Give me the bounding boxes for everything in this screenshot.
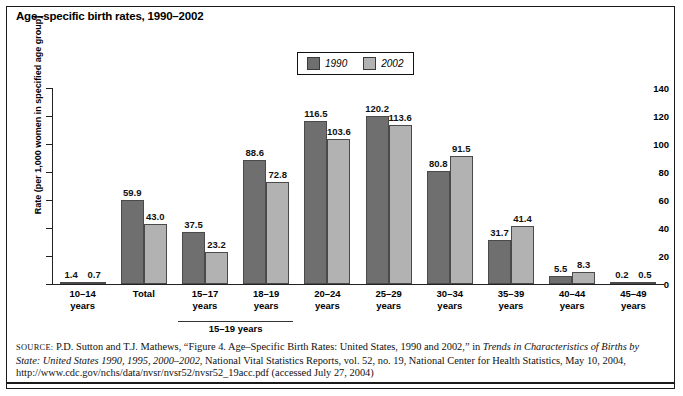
bar-1990-45-49-years — [610, 282, 633, 284]
bar-1990-15-17-years — [182, 232, 205, 285]
bar-value-label: 23.2 — [207, 239, 226, 250]
bar-group: 31.741.4 — [488, 88, 534, 284]
bar-value-label: 0.5 — [638, 269, 651, 280]
bar-1990-total — [121, 200, 144, 284]
bar-value-label: 59.9 — [123, 187, 142, 198]
x-label-line2: years — [620, 300, 646, 312]
x-label-line1: 10–14 — [69, 288, 95, 300]
bottom-rule — [6, 382, 675, 384]
x-label-line1: 25–29 — [375, 288, 401, 300]
x-label-line2: years — [559, 300, 585, 312]
plot-area: Rate (per 1,000 women in specified age g… — [0, 0, 669, 383]
bar-value-label: 72.8 — [268, 169, 287, 180]
x-label-line1: 30–34 — [437, 288, 463, 300]
bar-2002-15-17-years — [205, 252, 228, 284]
x-axis-tick-label: 20–24years — [314, 288, 340, 311]
bar-value-label: 113.6 — [388, 112, 411, 123]
bar-group: 116.5103.6 — [304, 88, 350, 284]
bar-group: 37.523.2 — [182, 88, 228, 284]
bar-value-label: 91.5 — [452, 143, 471, 154]
x-axis-tick-label: 18–19years — [253, 288, 279, 311]
x-label-line1: 35–39 — [498, 288, 524, 300]
bar-2002-20-24-years — [327, 139, 350, 284]
x-label-line1: 15–17 — [192, 288, 218, 300]
x-axis-tick-label: 35–39years — [498, 288, 524, 311]
bracket-label: 15–19 years — [178, 323, 292, 334]
bar-value-label: 120.2 — [365, 103, 389, 114]
bar-group: 5.58.3 — [549, 88, 595, 284]
bar-value-label: 8.3 — [577, 259, 590, 270]
bar-1990-30-34-years — [427, 171, 450, 284]
x-axis-tick-label: Total — [133, 288, 155, 300]
bar-value-label: 103.6 — [327, 126, 351, 137]
x-label-line2: years — [437, 300, 463, 312]
x-axis-tick-label: 45–49years — [620, 288, 646, 311]
bar-value-label: 80.8 — [429, 158, 448, 169]
x-label-line2: years — [69, 300, 95, 312]
source-italic-1: Trends in Characteristics of Births by — [483, 341, 639, 352]
x-axis-tick-label: 40–44years — [559, 288, 585, 311]
bar-group: 80.891.5 — [427, 88, 473, 284]
bar-value-label: 116.5 — [304, 108, 327, 119]
bar-value-label: 37.5 — [184, 219, 203, 230]
source-italic-2: State: United States 1990, 1995, 2000–20… — [16, 355, 202, 366]
bars-layer: 1.40.759.943.037.523.288.672.8116.5103.6… — [52, 88, 664, 284]
source-text-3: www.cdc.gov/nchs/data/nvsr/nvsr52/nvsr52… — [41, 367, 374, 378]
bar-2002-25-29-years — [389, 125, 412, 284]
bar-value-label: 41.4 — [513, 213, 532, 224]
source-text-1: P.D. Sutton and T.J. Mathews, “Figure 4.… — [53, 341, 482, 352]
x-axis-tick-label: 10–14years — [69, 288, 95, 311]
source-note: SOURCE: P.D. Sutton and T.J. Mathews, “F… — [16, 341, 656, 380]
bar-2002-30-34-years — [450, 156, 473, 284]
x-axis-tick-label: 15–17years — [192, 288, 218, 311]
bar-group: 0.20.5 — [610, 88, 656, 284]
bar-group: 88.672.8 — [243, 88, 289, 284]
bar-value-label: 43.0 — [146, 211, 165, 222]
bar-1990-10-14-years — [60, 282, 83, 284]
y-axis-label: Rate (per 1,000 women in specified age g… — [33, 15, 43, 215]
bar-1990-18-19-years — [243, 160, 266, 284]
bar-1990-40-44-years — [549, 276, 572, 284]
bar-value-label: 0.2 — [615, 269, 628, 280]
bar-value-label: 1.4 — [64, 269, 77, 280]
x-label-line1: 20–24 — [314, 288, 340, 300]
bar-1990-35-39-years — [488, 240, 511, 284]
x-label-line1: 45–49 — [620, 288, 646, 300]
bar-group: 1.40.7 — [60, 88, 106, 284]
bar-2002-10-14-years — [83, 282, 106, 284]
x-axis-labels: 10–14yearsTotal15–17years18–19years20–24… — [52, 288, 664, 322]
x-label-line2: years — [498, 300, 524, 312]
x-axis-tick-label: 25–29years — [375, 288, 401, 311]
bar-2002-total — [144, 224, 167, 284]
x-label-line1: 18–19 — [253, 288, 279, 300]
x-label-line1: 40–44 — [559, 288, 585, 300]
bar-value-label: 5.5 — [554, 263, 567, 274]
x-label-line2: years — [192, 300, 218, 312]
bar-2002-18-19-years — [266, 182, 289, 284]
bar-2002-45-49-years — [633, 282, 656, 284]
x-label-line2: years — [314, 300, 340, 312]
bar-value-label: 88.6 — [245, 147, 264, 158]
bar-group: 120.2113.6 — [366, 88, 412, 284]
x-label-line1: Total — [133, 288, 155, 300]
bar-value-label: 31.7 — [490, 227, 509, 238]
x-label-line2: years — [253, 300, 279, 312]
bar-2002-35-39-years — [511, 226, 534, 284]
bar-2002-40-44-years — [572, 272, 595, 284]
bar-group: 59.943.0 — [121, 88, 167, 284]
source-prefix: SOURCE: — [16, 343, 53, 352]
bar-value-label: 0.7 — [87, 269, 100, 280]
x-label-line2: years — [375, 300, 401, 312]
bar-1990-25-29-years — [366, 116, 389, 284]
x-axis-tick-label: 30–34years — [437, 288, 463, 311]
bar-1990-20-24-years — [304, 121, 327, 284]
